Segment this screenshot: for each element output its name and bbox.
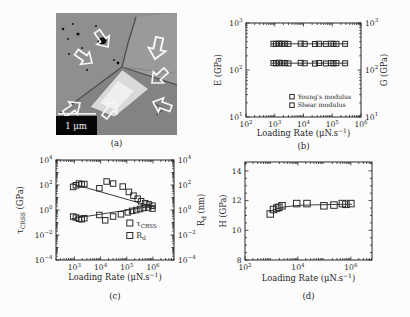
y-tick-label-right: 103	[365, 17, 379, 27]
x-tick-label: 102	[239, 119, 252, 129]
y-tick-label-right: 102	[365, 64, 378, 74]
y-tick-label: 10−4	[35, 254, 53, 264]
plot-frame	[245, 162, 372, 260]
x-tick-label: 104	[291, 262, 305, 272]
data-marker	[331, 202, 338, 209]
y-tick-label-right: 10−2	[178, 229, 196, 239]
legend-marker	[127, 220, 133, 226]
legend-label: τCRSS	[136, 219, 157, 229]
y-axis-title-left: E (GPa)	[213, 54, 223, 86]
legend-label: Rd	[136, 231, 146, 241]
legend-label: Young's modulus	[297, 93, 352, 101]
y-tick-label: 10	[232, 226, 242, 235]
x-tick-label: 104	[94, 262, 108, 272]
data-marker	[97, 185, 103, 191]
hardness-chart: 1021041068101214Loading Rate (μN.s−1)H (…	[219, 152, 409, 304]
chart-panel-hardness: 1021041068101214Loading Rate (μN.s−1)H (…	[219, 152, 409, 304]
figure: 1 μm (a) 1021031041051061011011021021031…	[0, 0, 410, 317]
panel-a-label: (a)	[56, 138, 177, 148]
sem-image: 1 μm	[56, 13, 177, 135]
y-axis-title-left: H (GPa)	[219, 194, 228, 227]
sem-micrograph-panel: 1 μm	[56, 13, 177, 135]
y-tick-label: 102	[39, 179, 52, 189]
data-marker	[102, 218, 108, 224]
x-axis-title: Loading Rate (μN.s−1)	[68, 271, 161, 282]
x-tick-label: 106	[344, 262, 358, 272]
y-tick-label-right: 104	[178, 154, 192, 164]
data-marker	[321, 203, 328, 210]
x-axis-title: Loading Rate (μN.s−1)	[262, 272, 355, 283]
x-axis-title: Loading Rate (μN.s−1)	[257, 127, 350, 138]
y-axis-title-right: G (GPa)	[379, 54, 389, 87]
y-tick-label: 14	[232, 167, 242, 176]
y-tick-label: 100	[39, 204, 53, 214]
y-tick-label-right: 101	[365, 111, 378, 121]
data-marker	[104, 179, 110, 185]
data-marker	[304, 200, 311, 207]
y-axis-title-right: Rd (nm)	[196, 194, 207, 226]
data-marker	[120, 184, 126, 190]
y-tick-label: 10−2	[35, 229, 53, 239]
panel-b-label: (b)	[246, 141, 361, 151]
scale-bar-label: 1 μm	[65, 121, 87, 131]
y-tick-label: 8	[237, 256, 242, 265]
legend-marker	[290, 94, 295, 99]
y-tick-label: 104	[39, 154, 53, 164]
data-marker	[110, 214, 116, 220]
scale-bar: 1 μm	[56, 113, 97, 135]
modulus-chart: 102103104105106101101102102103103Loading…	[203, 0, 410, 152]
x-tick-label: 105	[120, 262, 134, 272]
x-tick-label: 103	[68, 262, 82, 272]
y-tick-label: 103	[229, 17, 243, 27]
chart-panel-modulus: 102103104105106101101102102103103Loading…	[203, 0, 410, 152]
y-axis-title-left: τCRSS (GPa)	[15, 186, 26, 234]
legend-marker	[290, 103, 295, 108]
scale-bar-line	[58, 113, 96, 115]
panel-c-label: (c)	[56, 291, 174, 301]
y-tick-label-right: 100	[178, 204, 192, 214]
crss-rd-chart: 10310410510610−410−410−210−2100100102102…	[5, 152, 217, 304]
chart-panel-crss-rd: 10310410510610−410−410−210−2100100102102…	[5, 152, 217, 304]
legend-marker	[127, 233, 133, 239]
panel-d-label: (d)	[245, 291, 372, 301]
plot-frame	[56, 160, 174, 260]
y-tick-label: 12	[232, 196, 242, 205]
data-marker	[110, 181, 116, 187]
data-marker	[118, 212, 124, 218]
y-tick-label: 102	[229, 64, 242, 74]
legend-label: Shear modulus	[298, 101, 346, 108]
y-tick-label-right: 10−4	[178, 254, 196, 264]
y-tick-label-right: 102	[178, 179, 191, 189]
